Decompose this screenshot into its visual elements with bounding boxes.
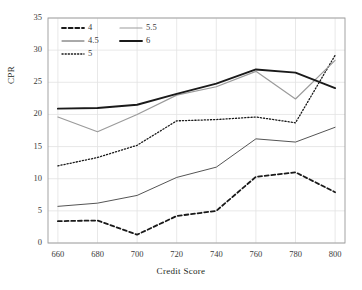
- plot-area: [0, 0, 362, 290]
- y-tick-label: 30: [18, 44, 42, 54]
- x-tick-label: 740: [200, 249, 232, 259]
- series-line-5-5: [58, 60, 335, 131]
- legend-label-5-5: 5.5: [146, 22, 157, 32]
- x-tick-label: 800: [319, 249, 351, 259]
- cpr-credit-score-line-chart: CPR Credit Score 05101520253035660680700…: [0, 0, 362, 290]
- x-axis-title: Credit Score: [0, 266, 362, 276]
- x-tick-label: 660: [42, 249, 74, 259]
- y-tick-label: 15: [18, 141, 42, 151]
- x-tick-label: 700: [121, 249, 153, 259]
- y-tick-label: 0: [18, 237, 42, 247]
- legend-label-6: 6: [146, 35, 150, 45]
- series-line-4: [58, 172, 335, 234]
- y-tick-label: 35: [18, 12, 42, 22]
- x-tick-label: 780: [280, 249, 312, 259]
- x-tick-label: 720: [161, 249, 193, 259]
- y-tick-label: 20: [18, 108, 42, 118]
- y-axis-title: CPR: [6, 45, 16, 105]
- legend-label-4: 4: [88, 22, 92, 32]
- y-tick-label: 10: [18, 173, 42, 183]
- legend-label-5: 5: [88, 48, 92, 58]
- series-line-4-5: [58, 127, 335, 206]
- x-tick-label: 680: [82, 249, 114, 259]
- y-tick-label: 5: [18, 205, 42, 215]
- legend-label-4-5: 4.5: [88, 35, 99, 45]
- y-tick-label: 25: [18, 76, 42, 86]
- series-line-6: [58, 69, 335, 108]
- x-tick-label: 760: [240, 249, 272, 259]
